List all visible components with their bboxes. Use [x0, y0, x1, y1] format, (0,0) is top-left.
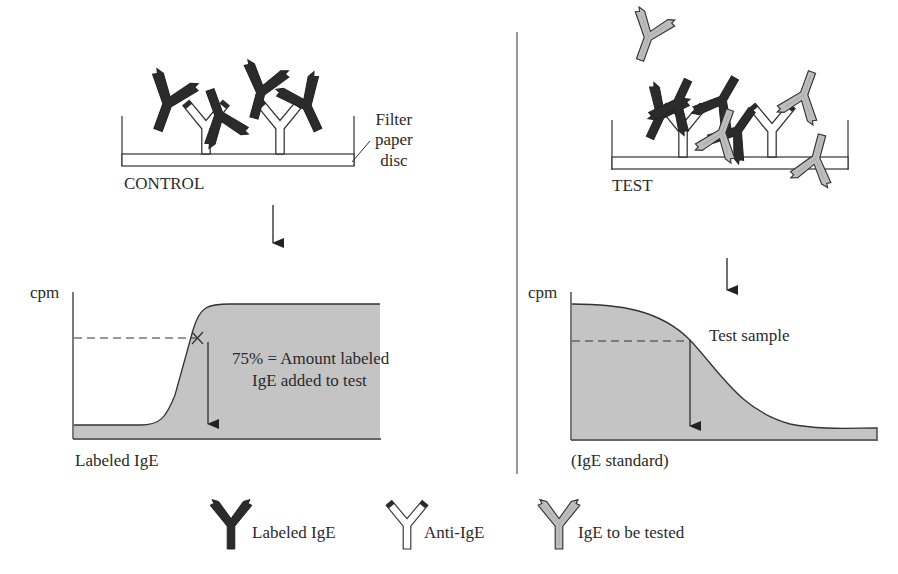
test-y-label: cpm [528, 284, 557, 303]
legend-test-ige-label: IgE to be tested [578, 524, 684, 543]
disc-label-line-2: paper [375, 130, 413, 150]
disc-label-line-3: disc [375, 151, 413, 171]
filter-paper-disc [122, 154, 354, 166]
filter-paper-disc-label: Filter paper disc [375, 110, 413, 171]
labeled-ige-icon [210, 500, 252, 549]
legend-anti-ige-label: Anti-IgE [424, 524, 484, 543]
control-annotation-line-2: IgE added to test [252, 372, 367, 391]
control-title: CONTROL [124, 175, 204, 194]
diagram-canvas [0, 0, 898, 574]
control-x-label: Labeled IgE [75, 452, 159, 471]
test-chart [571, 292, 878, 440]
control-y-label: cpm [30, 284, 59, 303]
test-ige-icon [538, 500, 580, 549]
anti-ige-icon [386, 501, 428, 549]
test-title: TEST [612, 177, 653, 196]
test-annotation: Test sample [709, 327, 789, 346]
disc-label-line-1: Filter [375, 110, 413, 130]
disc-pointer-line [352, 141, 370, 162]
control-labeled-ige [135, 59, 339, 149]
test-x-label: (IgE standard) [571, 452, 669, 471]
legend-labeled-ige-label: Labeled IgE [252, 524, 336, 543]
control-annotation-line-1: 75% = Amount labeled [232, 350, 389, 369]
